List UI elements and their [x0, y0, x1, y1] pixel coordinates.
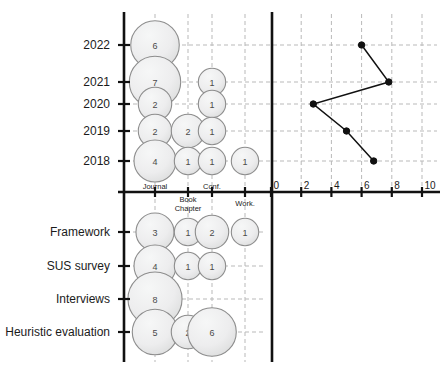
line-data-point	[386, 79, 392, 85]
bubble-value-label: 1	[185, 157, 190, 167]
line-series	[310, 42, 392, 164]
bubble-value-label: 6	[152, 41, 157, 51]
numeric-axis-label: 6	[364, 180, 370, 191]
year-axis-label: 2020	[83, 97, 110, 111]
bubble-value-label: 1	[185, 262, 190, 272]
bubble-value-label: 5	[152, 328, 157, 338]
bubble-and-line-chart: 67121221411131214118526 2022202120202019…	[0, 0, 447, 369]
year-axis-label: 2022	[83, 38, 110, 52]
bubble: 1	[198, 90, 225, 117]
bubble-value-label: 8	[152, 295, 157, 305]
bubble-value-label: 1	[209, 262, 214, 272]
year-axis-label: 2021	[83, 75, 110, 89]
numeric-axis-label: 10	[425, 180, 437, 191]
bubble-value-label: 2	[209, 228, 214, 238]
bubble-value-label: 2	[152, 127, 157, 137]
numeric-axis-label: 2	[304, 180, 310, 191]
bubble-value-label: 2	[152, 100, 157, 110]
bubble-value-label: 1	[209, 127, 214, 137]
bubble: 1	[198, 117, 225, 144]
bubble-value-label: 3	[152, 228, 157, 238]
category-label-book-chapter: Chapter	[175, 204, 202, 213]
bubble: 2	[195, 215, 228, 248]
bubble: 1	[231, 218, 258, 245]
category-label-journal: Journal	[143, 182, 168, 191]
bubble-value-label: 1	[185, 228, 190, 238]
method-axis-label: Framework	[50, 225, 111, 239]
figure-root: 67121221411131214118526 2022202120202019…	[0, 0, 447, 369]
bubble-value-label: 1	[209, 78, 214, 88]
bubble-value-label: 1	[209, 157, 214, 167]
category-label-workshop: Work.	[235, 199, 254, 208]
bubble: 1	[174, 252, 201, 279]
bubble-value-label: 4	[152, 157, 157, 167]
bubble-value-label: 7	[152, 78, 157, 88]
bubble: 4	[134, 140, 176, 182]
bubble: 1	[198, 252, 225, 279]
bubble-value-label: 1	[242, 228, 247, 238]
category-label-book-chapter: Book	[179, 195, 196, 204]
line-data-point	[310, 101, 316, 107]
bubble-value-label: 4	[152, 262, 157, 272]
category-label-conference: Conf.	[203, 182, 221, 191]
bubble: 1	[231, 147, 258, 174]
bubble: 1	[174, 147, 201, 174]
bubble-value-label: 1	[209, 100, 214, 110]
year-axis-label: 2019	[83, 124, 110, 138]
trend-line	[313, 45, 389, 161]
bubble-value-label: 2	[185, 127, 190, 137]
numeric-axis-label: 0	[274, 180, 280, 191]
line-data-point	[343, 128, 349, 134]
method-axis-label: Interviews	[56, 292, 110, 306]
line-data-point	[358, 42, 364, 48]
method-axis-label: Heuristic evaluation	[5, 325, 110, 339]
numeric-axis-label: 4	[334, 180, 340, 191]
numeric-axis-label: 8	[394, 180, 400, 191]
method-axis-label: SUS survey	[47, 259, 110, 273]
year-axis-label: 2018	[83, 154, 110, 168]
bubble-value-label: 6	[209, 328, 214, 338]
bubble-value-label: 1	[242, 157, 247, 167]
bubble: 1	[198, 147, 225, 174]
line-data-point	[370, 158, 376, 164]
bubble: 6	[188, 308, 237, 357]
